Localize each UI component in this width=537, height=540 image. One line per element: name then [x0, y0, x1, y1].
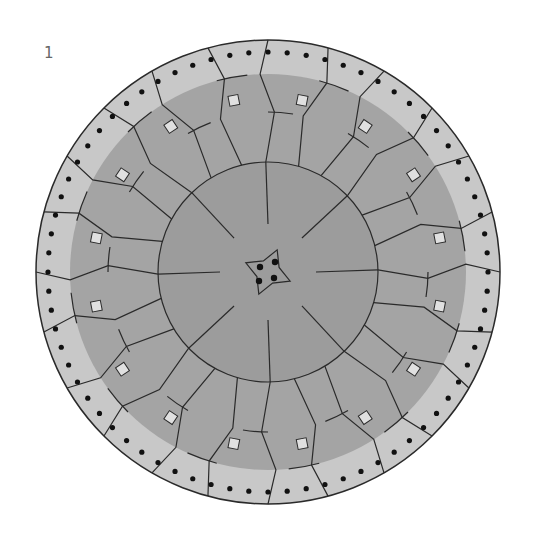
dot: [155, 460, 160, 465]
dot: [434, 411, 439, 416]
dot: [375, 460, 380, 465]
dot: [75, 159, 80, 164]
dot: [407, 101, 412, 106]
square-marker: [434, 300, 446, 312]
dot: [465, 176, 470, 181]
dot: [446, 396, 451, 401]
dot: [85, 143, 90, 148]
dot: [358, 469, 363, 474]
dot: [208, 482, 213, 487]
dot: [285, 50, 290, 55]
dot: [465, 362, 470, 367]
dot: [155, 79, 160, 84]
dot: [265, 49, 270, 54]
dot: [110, 114, 115, 119]
dot: [172, 70, 177, 75]
dot: [478, 326, 483, 331]
square-marker: [90, 232, 102, 244]
dot: [66, 362, 71, 367]
dot: [75, 379, 80, 384]
dot: [53, 212, 58, 217]
dot: [482, 308, 487, 313]
dot: [46, 289, 51, 294]
dot: [172, 469, 177, 474]
dot: [472, 345, 477, 350]
dot: [434, 128, 439, 133]
dot: [45, 269, 50, 274]
dot: [190, 63, 195, 68]
dot: [472, 194, 477, 199]
dot: [97, 411, 102, 416]
dot: [407, 438, 412, 443]
dot: [139, 450, 144, 455]
dot: [139, 89, 144, 94]
dot: [97, 128, 102, 133]
dot: [124, 438, 129, 443]
dot: [375, 79, 380, 84]
dot: [208, 57, 213, 62]
dot: [304, 53, 309, 58]
dot: [446, 143, 451, 148]
dot: [246, 50, 251, 55]
dot: [341, 476, 346, 481]
square-marker: [228, 438, 240, 450]
dot: [456, 159, 461, 164]
square-marker: [228, 94, 240, 106]
dot: [246, 489, 251, 494]
dot: [478, 212, 483, 217]
square-marker: [296, 438, 308, 450]
dot: [190, 476, 195, 481]
dot: [53, 326, 58, 331]
dot: [392, 450, 397, 455]
dot: [85, 396, 90, 401]
dot: [285, 489, 290, 494]
dot: [341, 63, 346, 68]
dot: [227, 53, 232, 58]
dot: [485, 269, 490, 274]
dot: [66, 176, 71, 181]
dot: [482, 231, 487, 236]
square-marker: [296, 94, 308, 106]
dot: [59, 345, 64, 350]
dot: [485, 250, 490, 255]
circular-labyrinth-diagram: [0, 0, 537, 540]
dot: [124, 101, 129, 106]
dot: [421, 114, 426, 119]
square-marker: [90, 300, 102, 312]
dot: [485, 289, 490, 294]
dot: [392, 89, 397, 94]
dot: [304, 486, 309, 491]
dot: [322, 482, 327, 487]
dot: [358, 70, 363, 75]
dot: [49, 231, 54, 236]
dot: [227, 486, 232, 491]
dot: [322, 57, 327, 62]
dot: [265, 489, 270, 494]
dot: [456, 379, 461, 384]
square-marker: [434, 232, 446, 244]
dot: [49, 308, 54, 313]
dot: [46, 250, 51, 255]
dot: [59, 194, 64, 199]
dot: [110, 425, 115, 430]
dot: [421, 425, 426, 430]
